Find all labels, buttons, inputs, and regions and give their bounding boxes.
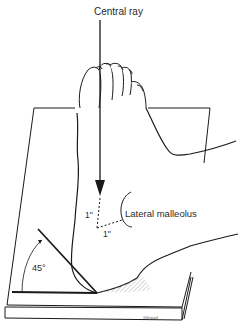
central-ray-label: Central ray — [94, 7, 143, 17]
horizontal-offset-label: 1'' — [103, 230, 111, 239]
illustration — [0, 0, 246, 328]
angle-label: 45° — [32, 264, 46, 273]
vertical-offset-label: 1'' — [85, 211, 93, 220]
heel-shadow — [100, 275, 152, 292]
leg — [71, 108, 238, 293]
foot — [79, 63, 146, 108]
lateral-malleolus-label: Lateral malleolus — [125, 209, 197, 219]
angle-sponge-45 — [12, 229, 97, 293]
artist-signature: Sibstad — [143, 315, 158, 320]
radiography-positioning-diagram: Central ray Lateral malleolus 1'' 1'' 45… — [0, 0, 246, 328]
